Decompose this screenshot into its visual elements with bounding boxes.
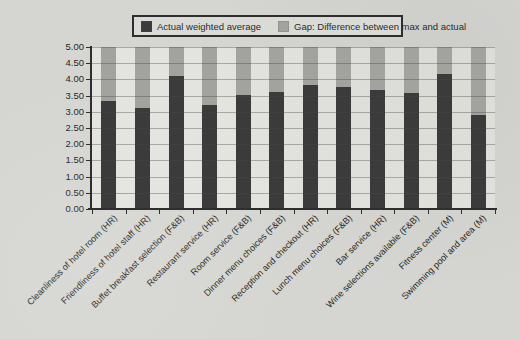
x-axis-line: [88, 208, 497, 210]
bar-gap-segment: [336, 47, 351, 87]
y-axis-tick: [86, 79, 91, 80]
x-axis-tick: [92, 210, 93, 214]
gridline: [92, 112, 495, 113]
gridline: [92, 160, 495, 161]
x-axis-tick: [126, 210, 127, 214]
y-axis-tick-label: 4.00: [54, 74, 84, 84]
x-axis-tick: [495, 210, 496, 214]
bar-actual-segment: [437, 74, 452, 209]
gridline: [92, 128, 495, 129]
y-axis-tick: [86, 144, 91, 145]
bar-gap-segment: [370, 47, 385, 90]
x-axis-tick: [260, 210, 261, 214]
y-axis-tick-label: 0.00: [54, 204, 84, 214]
y-axis-tick: [86, 128, 91, 129]
bar-gap-segment: [269, 47, 284, 92]
legend-item-gap: Gap: Difference between max and actual: [278, 21, 466, 32]
chart-legend: Actual weighted average Gap: Difference …: [132, 15, 403, 37]
y-axis-tick: [86, 63, 91, 64]
x-axis-tick: [226, 210, 227, 214]
gridline: [92, 47, 495, 48]
bar-actual-segment: [471, 115, 486, 209]
bar-actual-segment: [370, 90, 385, 209]
y-axis-tick-label: 5.00: [54, 42, 84, 52]
x-axis-tick: [159, 210, 160, 214]
bar-gap-segment: [135, 47, 150, 108]
y-axis-tick: [86, 160, 91, 161]
legend-label-gap: Gap: Difference between max and actual: [294, 21, 466, 32]
y-axis-tick-label: 0.50: [54, 188, 84, 198]
y-axis-tick: [86, 112, 91, 113]
gridline: [92, 96, 495, 97]
stacked-bar-chart-figure: Actual weighted average Gap: Difference …: [0, 0, 520, 339]
y-axis-tick: [86, 47, 91, 48]
bar-gap-segment: [101, 47, 116, 101]
gridline: [92, 193, 495, 194]
gridline: [92, 63, 495, 64]
y-axis-tick: [86, 193, 91, 194]
bar-gap-segment: [437, 47, 452, 74]
legend-swatch-actual-icon: [141, 21, 152, 32]
bar-gap-segment: [471, 47, 486, 115]
plot-area: [92, 47, 495, 209]
gridline: [92, 79, 495, 80]
gridline: [92, 177, 495, 178]
y-axis-tick-label: 2.00: [54, 139, 84, 149]
y-axis-tick-label: 1.00: [54, 172, 84, 182]
bar-gap-segment: [404, 47, 419, 93]
x-axis-tick: [394, 210, 395, 214]
legend-item-actual: Actual weighted average: [141, 21, 261, 32]
x-axis-tick: [294, 210, 295, 214]
bar-gap-segment: [236, 47, 251, 95]
bar-actual-segment: [303, 85, 318, 209]
bar-actual-segment: [269, 92, 284, 209]
y-axis-tick: [86, 177, 91, 178]
bar-actual-segment: [336, 87, 351, 210]
gridline: [92, 144, 495, 145]
x-axis-tick: [361, 210, 362, 214]
x-axis-tick: [193, 210, 194, 214]
y-axis-tick-label: 1.50: [54, 155, 84, 165]
y-axis-tick: [86, 209, 91, 210]
x-axis-tick: [327, 210, 328, 214]
y-axis-tick-label: 4.50: [54, 58, 84, 68]
y-axis-tick: [86, 96, 91, 97]
bar-actual-segment: [404, 93, 419, 209]
legend-swatch-gap-icon: [278, 21, 289, 32]
bar-gap-segment: [169, 47, 184, 76]
y-axis-tick-label: 3.50: [54, 91, 84, 101]
y-axis-tick-label: 3.00: [54, 107, 84, 117]
legend-label-actual: Actual weighted average: [157, 21, 261, 32]
bar-actual-segment: [135, 108, 150, 209]
x-axis-tick: [428, 210, 429, 214]
y-axis-tick-label: 2.50: [54, 123, 84, 133]
x-axis-tick: [461, 210, 462, 214]
